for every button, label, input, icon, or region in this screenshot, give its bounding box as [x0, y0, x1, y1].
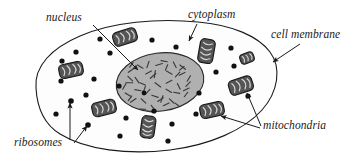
- ribosome-dot: [149, 37, 154, 42]
- ribosome-dot: [53, 111, 58, 116]
- cell-diagram-canvas: nucleus cytoplasm cell membrane mitochon…: [0, 0, 357, 162]
- ribosome-dot: [97, 36, 102, 41]
- label-cytoplasm: cytoplasm: [188, 8, 236, 21]
- ribosome-dot: [117, 133, 122, 138]
- ribosome-dot: [58, 78, 63, 83]
- ribosome-dot: [231, 63, 236, 68]
- ribosome-dot: [59, 58, 64, 63]
- ribosome-dot: [68, 98, 74, 104]
- ribosome-dot: [142, 91, 147, 96]
- ribosome-dot: [213, 69, 218, 74]
- ribosome-dot: [165, 138, 170, 143]
- ribosome-dot: [91, 76, 96, 81]
- cell-diagram: nucleus cytoplasm cell membrane mitochon…: [0, 0, 357, 162]
- ribosome-dot: [173, 44, 178, 49]
- ribosome-dot: [123, 115, 128, 120]
- ribosome-dot: [83, 92, 88, 97]
- ribosome-dot: [228, 45, 233, 50]
- label-ribosomes: ribosomes: [14, 136, 63, 148]
- ribosome-dot: [169, 121, 174, 126]
- mitochondrion: [140, 115, 157, 139]
- label-mitochondria: mitochondria: [263, 119, 326, 131]
- ribosome-dot: [116, 83, 121, 88]
- ribosome-dot: [151, 108, 156, 113]
- ribosome-dot: [193, 111, 198, 116]
- cell-membrane-leader-line: [273, 44, 300, 62]
- ribosome-dot: [73, 49, 78, 54]
- ribosome-dot: [196, 90, 201, 95]
- ribosome-dot: [107, 50, 112, 55]
- label-cell-membrane: cell membrane: [271, 28, 340, 40]
- label-nucleus: nucleus: [46, 11, 82, 23]
